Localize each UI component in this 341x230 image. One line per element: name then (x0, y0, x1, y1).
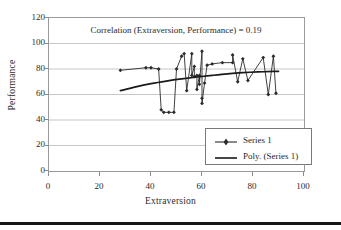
x-tick-mark-100 (303, 172, 304, 176)
y-tick-0: 0 (5, 166, 45, 175)
legend-item-series-1[interactable]: Series 1 (206, 132, 311, 148)
x-tick-40: 40 (135, 182, 165, 191)
x-tick-mark-0 (48, 172, 49, 176)
chart-figure: 020406080100120 Performance Correlation … (0, 0, 341, 230)
x-tick-mark-60 (201, 172, 202, 176)
x-tick-mark-80 (252, 172, 253, 176)
legend-label-poly-series-1: Poly. (Series 1) (239, 151, 298, 161)
y-tick-120: 120 (5, 13, 45, 22)
data-series-lines (120, 51, 276, 112)
chart-legend[interactable]: Series 1 Poly. (Series 1) (205, 128, 312, 165)
x-tick-mark-40 (150, 172, 151, 176)
bottom-divider (0, 222, 341, 225)
x-tick-80: 80 (237, 182, 267, 191)
x-tick-100: 100 (288, 182, 318, 191)
chart-title-annotation: Correlation (Extraversion, Performance) … (56, 25, 296, 36)
y-tick-20: 20 (5, 140, 45, 149)
x-tick-0: 0 (33, 182, 63, 191)
x-tick-60: 60 (186, 182, 216, 191)
x-tick-mark-20 (99, 172, 100, 176)
x-tick-20: 20 (84, 182, 114, 191)
x-axis-tick-labels: 020406080100 (0, 176, 341, 190)
legend-key-line-marker-icon (213, 134, 239, 146)
legend-label-series-1: Series 1 (239, 135, 272, 145)
x-axis-title: Extraversion (0, 196, 341, 206)
legend-item-poly-series-1[interactable]: Poly. (Series 1) (206, 148, 311, 164)
legend-key-line-icon (213, 150, 239, 162)
y-axis-title: Performance (7, 35, 17, 135)
